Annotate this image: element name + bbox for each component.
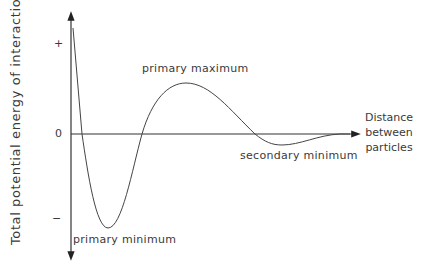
x-axis-label-line-1: Distance: [358, 110, 420, 125]
primary-maximum-label: primary maximum: [142, 62, 248, 75]
potential-energy-curve: [73, 28, 350, 228]
secondary-minimum-label: secondary minimum: [240, 149, 358, 162]
y-tick-minus: −: [52, 212, 61, 225]
x-axis-label-line-3: particles: [358, 140, 420, 155]
y-tick-zero: 0: [55, 127, 62, 140]
x-axis-label: Distance between particles: [358, 110, 420, 155]
y-axis-label: Total potential energy of interaction: [8, 0, 23, 245]
y-tick-plus: +: [54, 37, 63, 50]
primary-minimum-label: primary minimum: [73, 233, 176, 246]
x-axis-label-line-2: between: [358, 125, 420, 140]
